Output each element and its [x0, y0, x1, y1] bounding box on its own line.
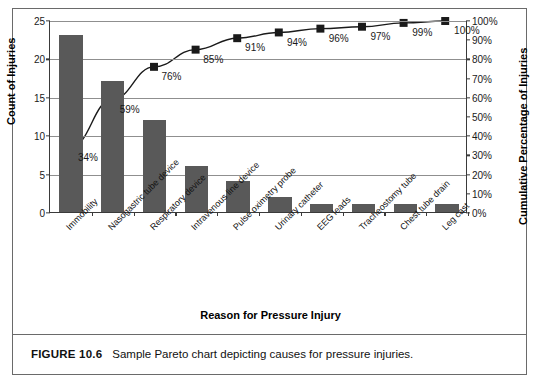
- figure-number: FIGURE 10.6: [31, 348, 102, 360]
- x-axis-title: Reason for Pressure Injury: [13, 309, 528, 321]
- cumulative-data-label: 91%: [245, 42, 265, 53]
- cumulative-marker: [233, 34, 241, 42]
- y-axis-right-tick-label: 30%: [472, 150, 492, 161]
- y-axis-left-tick-label: 5: [39, 169, 45, 180]
- bar: [59, 35, 82, 212]
- y-axis-right-tick-label: 60%: [472, 92, 492, 103]
- caption-divider: [13, 334, 526, 335]
- y-axis-left-tick-mark: [46, 174, 50, 175]
- cumulative-data-label: 96%: [329, 33, 349, 44]
- y-axis-left-tick-mark: [46, 97, 50, 98]
- figure-frame: Count of Injuries Cumulative Percentage …: [12, 8, 527, 375]
- y-axis-right-tick-label: 90%: [472, 35, 492, 46]
- x-axis-tick-mark: [301, 212, 302, 216]
- x-axis-tick-mark: [134, 212, 135, 216]
- y-axis-right-tick-mark: [466, 20, 470, 21]
- y-axis-left-tick-label: 25: [34, 16, 45, 27]
- cumulative-marker: [275, 28, 283, 36]
- y-axis-right-tick-label: 0%: [472, 208, 486, 219]
- y-axis-left-tick-mark: [46, 20, 50, 21]
- y-axis-right-tick-mark: [466, 155, 470, 156]
- gridline: [50, 59, 466, 60]
- cumulative-data-label: 34%: [78, 152, 98, 163]
- y-axis-left-title: Count of Injuries: [5, 38, 17, 125]
- y-axis-right-tick-label: 40%: [472, 131, 492, 142]
- x-axis-tick-mark: [426, 212, 427, 216]
- y-axis-right-tick-label: 80%: [472, 54, 492, 65]
- cumulative-data-label: 59%: [120, 104, 140, 115]
- cumulative-marker: [358, 23, 366, 31]
- y-axis-left-tick-mark: [46, 136, 50, 137]
- x-axis-tick-mark: [217, 212, 218, 216]
- cumulative-marker: [192, 46, 200, 54]
- x-axis-tick-mark: [468, 212, 469, 216]
- figure-caption: FIGURE 10.6Sample Pareto chart depicting…: [31, 347, 512, 361]
- y-axis-right-tick-mark: [466, 136, 470, 137]
- cumulative-data-label: 94%: [287, 37, 307, 48]
- y-axis-right-tick-mark: [466, 193, 470, 194]
- y-axis-right-title: Cumulative Percentage of Injuries: [517, 48, 529, 225]
- y-axis-right-tick-mark: [466, 59, 470, 60]
- x-axis-tick-mark: [92, 212, 93, 216]
- gridline: [50, 21, 466, 22]
- y-axis-right-tick-mark: [466, 40, 470, 41]
- cumulative-data-label: 99%: [412, 27, 432, 38]
- x-axis-tick-mark: [343, 212, 344, 216]
- cumulative-data-label: 100%: [454, 25, 480, 36]
- y-axis-left-tick-label: 20: [34, 54, 45, 65]
- y-axis-left-tick-label: 10: [34, 131, 45, 142]
- y-axis-left-tick-label: 0: [39, 208, 45, 219]
- bar: [101, 81, 124, 212]
- y-axis-right-tick-label: 50%: [472, 112, 492, 123]
- cumulative-data-label: 97%: [371, 31, 391, 42]
- x-axis-tick-mark: [175, 212, 176, 216]
- cumulative-marker: [150, 63, 158, 71]
- y-axis-right-tick-label: 70%: [472, 73, 492, 84]
- y-axis-right-tick-label: 20%: [472, 169, 492, 180]
- cumulative-data-label: 76%: [162, 71, 182, 82]
- cumulative-data-label: 85%: [203, 54, 223, 65]
- pareto-chart: Count of Injuries Cumulative Percentage …: [13, 9, 528, 327]
- y-axis-left-tick-mark: [46, 212, 50, 213]
- x-axis-tick-mark: [384, 212, 385, 216]
- y-axis-right-tick-mark: [466, 174, 470, 175]
- y-axis-left-tick-label: 15: [34, 92, 45, 103]
- cumulative-marker: [316, 25, 324, 33]
- y-axis-right-tick-mark: [466, 116, 470, 117]
- figure-caption-text: Sample Pareto chart depicting causes for…: [112, 348, 413, 360]
- y-axis-right-tick-mark: [466, 78, 470, 79]
- y-axis-right-tick-mark: [466, 97, 470, 98]
- x-axis-tick-mark: [259, 212, 260, 216]
- y-axis-right-tick-label: 10%: [472, 188, 492, 199]
- y-axis-left-tick-mark: [46, 59, 50, 60]
